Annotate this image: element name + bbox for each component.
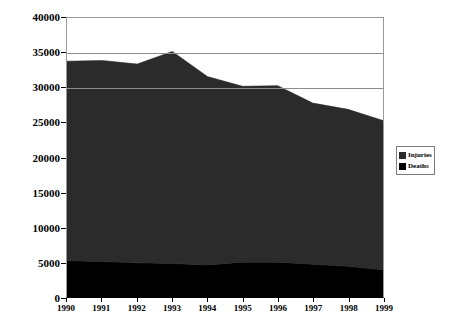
x-axis-tick-label: 1999 [375,303,393,313]
x-axis-tick-mark [172,298,173,302]
x-axis-tick-label: 1990 [57,303,75,313]
y-axis-tick-mark [61,52,66,53]
y-axis-tick-label: 35000 [33,46,61,58]
y-axis-tick-label: 5000 [38,257,60,269]
y-axis-labels: 0500010000150002000025000300003500040000 [0,0,60,327]
x-axis-tick-label: 1991 [92,303,110,313]
y-axis-tick-label: 30000 [33,81,61,93]
x-axis-tick-mark [278,298,279,302]
x-axis-tick-mark [66,298,67,302]
y-axis-tick-label: 25000 [33,116,61,128]
x-axis-tick-label: 1997 [304,303,322,313]
area-series-injuries [67,51,383,269]
x-axis-tick-label: 1994 [198,303,216,313]
y-axis-tick-mark [61,87,66,88]
y-axis-tick-mark [61,263,66,264]
y-axis-tick-label: 10000 [33,222,61,234]
chart-legend: InjuriesDeaths [396,146,435,175]
x-axis-tick-mark [313,298,314,302]
legend-label: Injuries [408,151,432,159]
y-axis-tick-mark [61,17,66,18]
x-axis-tick-label: 1996 [269,303,287,313]
x-axis-tick-label: 1998 [340,303,358,313]
legend-swatch-icon [399,152,406,159]
y-axis-tick-label: 15000 [33,187,61,199]
plot-area [66,17,384,298]
area-series-deaths [67,261,383,297]
chart-root: 0500010000150002000025000300003500040000… [0,0,451,327]
y-axis-tick-mark [61,122,66,123]
x-axis-tick-mark [101,298,102,302]
legend-swatch-icon [399,163,406,170]
x-axis-tick-mark [349,298,350,302]
y-axis-tick-mark [61,193,66,194]
x-axis-tick-mark [243,298,244,302]
y-axis-tick-mark [61,228,66,229]
legend-item: Deaths [399,161,432,171]
legend-item: Injuries [399,150,432,160]
x-axis-tick-mark [137,298,138,302]
x-axis-tick-label: 1992 [128,303,146,313]
y-axis-tick-label: 40000 [33,11,61,23]
legend-label: Deaths [408,162,429,170]
y-axis-tick-mark [61,158,66,159]
x-axis-tick-mark [207,298,208,302]
gridline [67,53,383,54]
gridline [67,88,383,89]
area-series-svg [67,18,383,297]
x-axis-tick-label: 1995 [234,303,252,313]
x-axis-tick-mark [384,298,385,302]
y-axis-tick-label: 20000 [33,152,61,164]
x-axis-tick-label: 1993 [163,303,181,313]
